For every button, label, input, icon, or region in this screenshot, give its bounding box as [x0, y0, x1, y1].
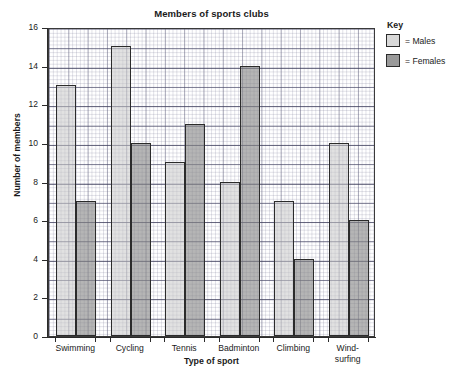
legend-label-females: = Females — [405, 56, 445, 66]
bar-females-swimming — [76, 201, 96, 336]
y-axis-tick-label: 12 — [0, 100, 38, 109]
gridline — [49, 126, 374, 127]
legend-title: Key — [386, 20, 462, 30]
x-axis-tick — [150, 338, 151, 342]
bar-males-climbing — [274, 201, 294, 336]
y-axis-tick — [42, 337, 48, 338]
legend-swatch-males — [386, 34, 400, 47]
gridline — [49, 319, 374, 320]
x-axis-line — [47, 337, 376, 338]
x-axis-tick — [55, 338, 56, 342]
bar-females-wind-surfing — [349, 220, 369, 336]
bar-females-climbing — [294, 259, 314, 336]
gridline — [49, 184, 374, 185]
x-axis-tick — [219, 338, 220, 342]
gridline — [49, 203, 374, 204]
gridline — [49, 241, 374, 242]
gridline — [49, 145, 374, 146]
x-axis-tick — [204, 338, 205, 342]
x-axis-tick — [328, 338, 329, 342]
legend: Key = Males= Females — [386, 20, 462, 74]
y-axis-title: Number of members — [12, 75, 22, 235]
x-axis-category-label: Badminton — [212, 343, 267, 354]
x-axis-category-label-line: Swimming — [48, 343, 103, 354]
legend-item-females: = Females — [386, 54, 462, 67]
legend-label-males: = Males — [405, 36, 435, 46]
x-axis-category-label-line: Climbing — [266, 343, 321, 354]
x-axis-category-label: Tennis — [157, 343, 212, 354]
gridline — [49, 299, 374, 300]
y-axis-tick-label: 2 — [0, 293, 38, 302]
bar-females-tennis — [185, 124, 205, 336]
y-axis-tick-label: 10 — [0, 139, 38, 148]
gridline — [49, 164, 374, 165]
y-axis-tick-label: 0 — [0, 332, 38, 341]
bar-chart: Members of sports clubs Number of member… — [0, 0, 466, 377]
gridline — [49, 87, 374, 88]
y-axis-tick-label: 8 — [0, 178, 38, 187]
plot-area — [48, 28, 375, 337]
y-axis-tick-label: 4 — [0, 255, 38, 264]
x-axis-tick — [313, 338, 314, 342]
legend-item-males: = Males — [386, 34, 462, 47]
y-axis-tick-label: 6 — [0, 216, 38, 225]
x-axis-category-label-line: Tennis — [157, 343, 212, 354]
x-axis-category-label-line: Wind- — [321, 343, 376, 354]
x-axis-tick — [110, 338, 111, 342]
bar-males-wind-surfing — [329, 143, 349, 336]
bar-males-tennis — [165, 162, 185, 336]
y-axis-tick-label: 14 — [0, 62, 38, 71]
gridline — [49, 68, 374, 69]
x-axis-tick — [368, 338, 369, 342]
x-axis-tick — [95, 338, 96, 342]
legend-swatch-females — [386, 54, 400, 67]
x-axis-category-label: Cycling — [103, 343, 158, 354]
bar-males-badminton — [220, 182, 240, 337]
x-axis-category-label-line: Badminton — [212, 343, 267, 354]
gridline — [49, 222, 374, 223]
gridline — [49, 280, 374, 281]
x-axis-tick — [259, 338, 260, 342]
y-axis-tick-label: 16 — [0, 23, 38, 32]
x-axis-category-label: Climbing — [266, 343, 321, 354]
bar-females-badminton — [240, 66, 260, 336]
legend-rows: = Males= Females — [386, 34, 462, 67]
gridline — [49, 48, 374, 49]
bar-males-swimming — [56, 85, 76, 336]
gridline — [49, 261, 374, 262]
x-axis-title: Type of sport — [48, 356, 375, 366]
x-axis-tick — [273, 338, 274, 342]
x-axis-category-label-line: Cycling — [103, 343, 158, 354]
bar-females-cycling — [131, 143, 151, 336]
chart-title: Members of sports clubs — [48, 8, 375, 20]
gridline — [49, 106, 374, 107]
x-axis-category-label: Swimming — [48, 343, 103, 354]
x-axis-tick — [164, 338, 165, 342]
bar-males-cycling — [111, 46, 131, 336]
